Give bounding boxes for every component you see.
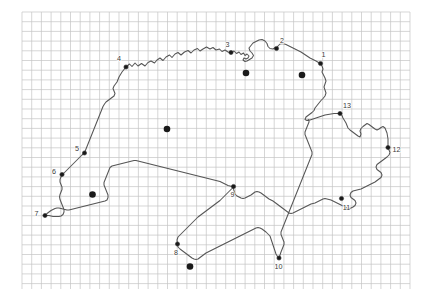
numbered-marker-5[interactable] <box>82 151 86 155</box>
city-dot[interactable] <box>243 70 250 77</box>
marker-label-10: 10 <box>275 262 283 271</box>
numbered-marker-10[interactable] <box>277 256 281 260</box>
marker-label-6: 6 <box>52 167 56 176</box>
numbered-marker-9[interactable] <box>231 184 235 188</box>
numbered-marker-7[interactable] <box>43 213 47 217</box>
city-dot[interactable] <box>164 126 171 133</box>
numbered-marker-13[interactable] <box>338 111 342 115</box>
marker-label-2: 2 <box>280 36 284 45</box>
numbered-marker-8[interactable] <box>175 242 179 246</box>
city-dot[interactable] <box>89 191 96 198</box>
map-background <box>0 0 436 301</box>
numbered-marker-2[interactable] <box>274 46 278 50</box>
marker-label-13: 13 <box>343 101 351 110</box>
marker-label-11: 11 <box>343 203 350 212</box>
marker-label-1: 1 <box>322 50 326 59</box>
numbered-marker-12[interactable] <box>386 145 390 149</box>
numbered-marker-11[interactable] <box>339 196 343 200</box>
city-dot[interactable] <box>187 263 194 270</box>
marker-label-9: 9 <box>231 190 235 199</box>
numbered-marker-6[interactable] <box>60 172 64 176</box>
map-figure: 12345678910111213 <box>0 0 436 301</box>
marker-label-5: 5 <box>75 144 79 153</box>
numbered-marker-3[interactable] <box>229 50 233 54</box>
marker-label-3: 3 <box>226 40 230 49</box>
marker-label-4: 4 <box>117 54 121 63</box>
map-svg: 12345678910111213 <box>0 0 436 301</box>
numbered-marker-1[interactable] <box>318 61 322 65</box>
city-dot[interactable] <box>299 72 306 79</box>
marker-label-12: 12 <box>393 145 401 154</box>
numbered-marker-4[interactable] <box>124 65 128 69</box>
marker-label-7: 7 <box>35 209 39 218</box>
marker-label-8: 8 <box>174 248 178 257</box>
